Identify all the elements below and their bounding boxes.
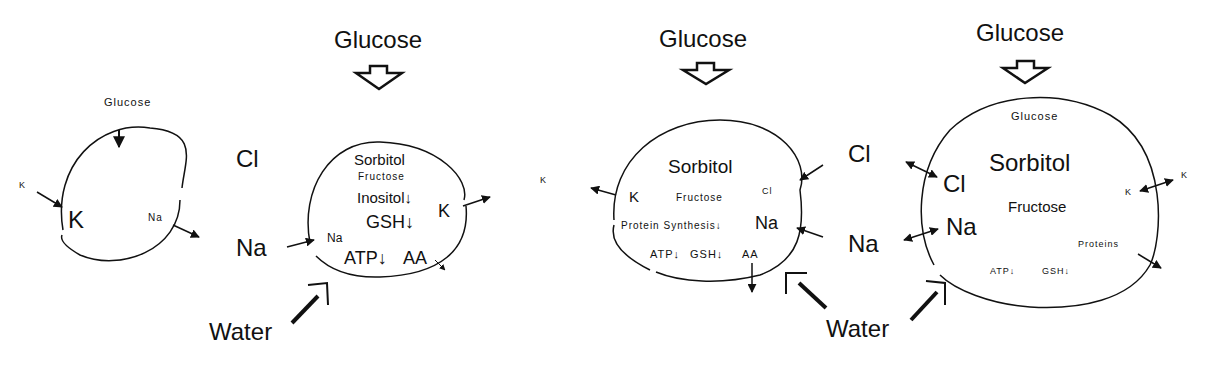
panel-2-glucose-label: Glucose (334, 28, 422, 52)
panel-3-inside-na-label: Na (755, 214, 778, 232)
panel-4-inside-cl-label: Cl (943, 172, 966, 196)
water-arrow-shaft (292, 296, 318, 323)
panel-4-outside-k-label: K (1181, 171, 1188, 180)
panel-4-atp-label: ATP↓ (990, 267, 1015, 276)
panel-3-inside-cl-label: Cl (762, 187, 773, 196)
panel-3-fructose-label: Fructose (676, 193, 723, 203)
panel-1-outside-k-label: K (19, 181, 26, 190)
panel-1-inside-na-label: Na (148, 213, 163, 223)
panel-2-atp-label: ATP↓ (344, 249, 387, 267)
panel-3-glucose-label: Glucose (659, 27, 747, 51)
diagram-graphics (0, 0, 1211, 370)
cl-exchange-arrow-icon (906, 162, 937, 177)
panel-3-protein-synthesis-label: Protein Synthesis↓ (621, 221, 722, 231)
panel-4-inside-k-label: K (1125, 188, 1132, 197)
panel-4-outside-cl-label: Cl (848, 142, 871, 166)
panel-2-aa-label: AA (403, 249, 427, 267)
panel-4-inside-glucose-label: Glucose (1011, 111, 1058, 122)
glucose-open-arrow-icon (356, 66, 402, 89)
panel-2-inositol-label: Inositol↓ (357, 190, 412, 205)
panel-4-gsh-label: GSH↓ (1042, 267, 1070, 276)
panel-4-inside-na-label: Na (946, 215, 977, 239)
panel-3-inside-k-label: K (629, 189, 639, 204)
panel-1-cell (37, 127, 199, 261)
panel-2-fructose-label: Fructose (358, 172, 405, 182)
panel-3-cell (591, 63, 826, 308)
panel-3-aa-label: AA (742, 249, 759, 260)
k-efflux-arrow-icon (591, 188, 616, 195)
panel-2-cl-label: Cl (236, 147, 259, 171)
panel-4-sorbitol-label: Sorbitol (989, 151, 1070, 175)
panel-4-proteins-label: Proteins (1078, 240, 1119, 249)
panel-2-water-label: Water (209, 320, 272, 344)
panel-2-outside-na-label: Na (236, 236, 267, 260)
na-exchange-arrow-icon (904, 229, 938, 240)
k-efflux-arrow-icon (463, 197, 490, 206)
na-influx-arrow-icon (797, 228, 823, 237)
panel-4-water-label: Water (826, 317, 889, 341)
glucose-open-arrow-icon (1003, 61, 1048, 83)
panel-4-outside-na-label: Na (848, 232, 879, 256)
water-arrow-shaft (911, 292, 937, 320)
panel-3-atp-label: ATP↓ (650, 249, 680, 260)
panel-4-glucose-label: Glucose (976, 21, 1064, 45)
water-arrow-shaft (799, 283, 826, 308)
panel-3-outside-k-label: K (540, 176, 547, 185)
panel-3-sorbitol-label: Sorbitol (668, 157, 732, 176)
water-arrow-head-icon (786, 273, 807, 294)
na-efflux-arrow-icon (173, 225, 199, 237)
cell-membrane (61, 127, 186, 261)
panel-2-gsh-label: GSH↓ (366, 213, 414, 231)
panel-2-inside-k-label: K (438, 202, 450, 220)
panel-2-sorbitol-label: Sorbitol (354, 152, 405, 167)
k-influx-arrow-icon (37, 192, 62, 207)
cl-influx-arrow-icon (800, 165, 823, 180)
panel-1-inside-k-label: K (68, 208, 84, 232)
panel-4-fructose-label: Fructose (1008, 199, 1066, 214)
na-influx-arrow-icon (287, 240, 314, 247)
panel-2-inside-na-label: Na (327, 232, 342, 244)
glucose-open-arrow-icon (683, 63, 729, 84)
panel-1-glucose-label: Glucose (104, 97, 151, 108)
panel-3-gsh-label: GSH↓ (690, 249, 723, 260)
